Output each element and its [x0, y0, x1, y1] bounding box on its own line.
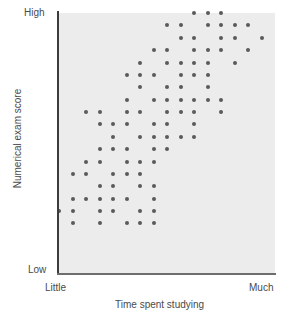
- data-point: [152, 122, 156, 126]
- data-point: [125, 172, 129, 176]
- data-point: [71, 172, 75, 176]
- data-point: [125, 160, 129, 164]
- data-point: [111, 122, 115, 126]
- data-point: [233, 61, 237, 65]
- data-point: [71, 197, 75, 201]
- data-point: [219, 48, 223, 52]
- data-point: [165, 110, 169, 114]
- data-point: [111, 147, 115, 151]
- data-point: [165, 48, 169, 52]
- data-point: [206, 85, 210, 89]
- data-point: [84, 160, 88, 164]
- data-point: [111, 135, 115, 139]
- data-point: [98, 209, 102, 213]
- x-axis-tick-little: Little: [45, 282, 66, 293]
- data-point: [219, 110, 223, 114]
- x-axis-tick-much: Much: [249, 282, 273, 293]
- data-point: [192, 135, 196, 139]
- data-point: [165, 98, 169, 102]
- data-point: [152, 160, 156, 164]
- data-point: [152, 98, 156, 102]
- data-point: [152, 147, 156, 151]
- data-point: [219, 98, 223, 102]
- data-point: [125, 197, 129, 201]
- data-point: [260, 36, 264, 40]
- data-point: [98, 197, 102, 201]
- data-point: [192, 48, 196, 52]
- data-point: [138, 209, 142, 213]
- data-point: [192, 110, 196, 114]
- data-point: [206, 48, 210, 52]
- data-point: [165, 135, 169, 139]
- data-point: [71, 221, 75, 225]
- data-point: [233, 36, 237, 40]
- data-point: [98, 160, 102, 164]
- data-point: [165, 23, 169, 27]
- data-point: [192, 98, 196, 102]
- data-point: [84, 197, 88, 201]
- data-point: [233, 23, 237, 27]
- data-point: [152, 197, 156, 201]
- data-point: [192, 11, 196, 15]
- data-point: [179, 73, 183, 77]
- x-axis-title: Time spent studying: [115, 299, 204, 310]
- data-point: [111, 197, 115, 201]
- data-point: [138, 172, 142, 176]
- data-point: [192, 36, 196, 40]
- data-point: [206, 73, 210, 77]
- data-point: [192, 61, 196, 65]
- data-point: [138, 184, 142, 188]
- data-point: [125, 122, 129, 126]
- y-axis-tick-high: High: [24, 7, 45, 18]
- data-point: [98, 122, 102, 126]
- y-axis-line: [57, 11, 59, 275]
- data-point: [138, 135, 142, 139]
- data-point: [219, 11, 223, 15]
- data-point: [179, 36, 183, 40]
- data-point: [179, 98, 183, 102]
- data-point: [152, 135, 156, 139]
- data-point: [125, 98, 129, 102]
- data-point: [125, 110, 129, 114]
- data-point: [125, 73, 129, 77]
- data-point: [138, 61, 142, 65]
- plot-area: [59, 13, 275, 273]
- x-axis-line: [57, 273, 276, 275]
- data-point: [165, 85, 169, 89]
- data-point: [206, 98, 210, 102]
- data-point: [152, 209, 156, 213]
- data-point: [179, 85, 183, 89]
- data-point: [206, 61, 210, 65]
- data-point: [192, 73, 196, 77]
- data-point: [179, 110, 183, 114]
- data-point: [152, 184, 156, 188]
- data-point: [111, 184, 115, 188]
- data-point: [138, 110, 142, 114]
- data-point: [125, 147, 129, 151]
- data-point: [219, 36, 223, 40]
- data-point: [179, 61, 183, 65]
- data-point: [179, 135, 183, 139]
- data-point: [246, 48, 250, 52]
- data-point: [84, 172, 88, 176]
- data-point: [152, 48, 156, 52]
- data-point: [111, 209, 115, 213]
- data-point: [206, 23, 210, 27]
- y-axis-tick-low: Low: [28, 264, 46, 275]
- data-point: [219, 23, 223, 27]
- data-point: [192, 122, 196, 126]
- data-point: [98, 221, 102, 225]
- data-point: [246, 23, 250, 27]
- data-point: [138, 73, 142, 77]
- data-point: [165, 61, 169, 65]
- data-point: [98, 147, 102, 151]
- y-axis-title: Numerical exam score: [12, 74, 23, 204]
- data-point: [138, 160, 142, 164]
- data-point: [71, 209, 75, 213]
- data-point: [138, 85, 142, 89]
- data-point: [152, 73, 156, 77]
- data-point: [98, 110, 102, 114]
- scatter-plot-figure: High Low Little Much Time spent studying…: [0, 0, 297, 315]
- data-point: [125, 221, 129, 225]
- data-point: [84, 110, 88, 114]
